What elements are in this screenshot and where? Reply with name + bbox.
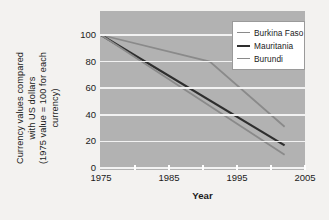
gridline-y-20	[100, 141, 305, 143]
x-axis-title: Year	[100, 190, 305, 201]
x-tickmark-2005	[304, 165, 305, 170]
legend-item-label: Burundi	[254, 54, 283, 64]
y-axis-title-line-2: with US dollars	[27, 18, 39, 198]
x-tick-label-2005: 2005	[294, 172, 315, 183]
gridline-y-40	[100, 114, 305, 116]
y-tick-label-80: 80	[72, 57, 96, 67]
x-tick-label-1975: 1975	[90, 172, 111, 183]
x-tickmark-1985	[168, 165, 169, 170]
y-axis-tick-labels: 020406080100	[72, 0, 96, 220]
gridline-y-60	[100, 87, 305, 89]
x-axis-tick-labels: 1975198519952005	[0, 172, 329, 186]
legend-item-burkina-faso[interactable]: Burkina Faso	[233, 26, 304, 39]
x-tickmark-2000	[270, 165, 271, 170]
y-tick-label-60: 60	[72, 83, 96, 93]
y-axis-title-line-1: Currency values compared	[15, 18, 27, 198]
x-tickmark-1980	[134, 165, 135, 170]
x-tickmark-1995	[236, 165, 237, 170]
legend-line-icon	[237, 32, 250, 33]
y-tick-label-20: 20	[72, 136, 96, 146]
y-tick-label-100: 100	[72, 30, 96, 40]
chart-legend: Burkina FasoMauritaniaBurundi	[232, 21, 305, 70]
legend-item-burundi[interactable]: Burundi	[233, 52, 304, 65]
legend-line-icon	[237, 45, 250, 47]
y-axis-title-line-4: currency)	[50, 18, 62, 198]
y-axis-title: Currency values compared with US dollars…	[15, 18, 61, 198]
y-axis-title-line-3: (1975 value = 100 for each	[38, 18, 50, 198]
legend-item-label: Burkina Faso	[254, 28, 303, 38]
chart-figure: Currency values compared with US dollars…	[0, 0, 329, 220]
x-tickmark-1990	[202, 165, 203, 170]
legend-item-mauritania[interactable]: Mauritania	[233, 39, 304, 52]
y-tick-label-40: 40	[72, 110, 96, 120]
legend-line-icon	[237, 58, 250, 59]
x-tick-label-1985: 1985	[158, 172, 179, 183]
legend-item-label: Mauritania	[254, 41, 293, 51]
x-tick-label-1995: 1995	[226, 172, 247, 183]
